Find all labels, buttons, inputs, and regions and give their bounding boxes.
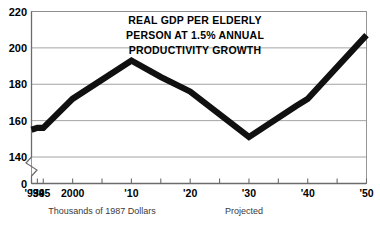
- y-axis-tick-label: 180: [9, 78, 27, 90]
- gdp-per-elderly-line-chart: 220200180160140 0 '93'94'952000'10'20'30…: [0, 0, 380, 227]
- x-axis-tick-label: '20: [183, 187, 197, 199]
- caption-projected: Projected: [225, 206, 263, 216]
- x-axis-tick-label: '40: [301, 187, 315, 199]
- chart-figure: 220200180160140 0 '93'94'952000'10'20'30…: [0, 0, 380, 227]
- chart-title-line: PRODUCTIVITY GROWTH: [129, 44, 262, 56]
- x-axis-tick-label: 2000: [61, 187, 85, 199]
- caption-units: Thousands of 1987 Dollars: [48, 206, 156, 216]
- chart-title: REAL GDP PER ELDERLYPERSON AT 1.5% ANNUA…: [126, 14, 264, 56]
- x-axis-tick-label: '30: [242, 187, 256, 199]
- y-axis-tick-label: 200: [9, 42, 27, 54]
- y-axis-tick-label: 160: [9, 115, 27, 127]
- x-axis-tick-label: '95: [36, 187, 50, 199]
- y-axis-tick-label: 140: [9, 151, 27, 163]
- x-axis-tick-label: '10: [124, 187, 138, 199]
- chart-title-line: REAL GDP PER ELDERLY: [128, 14, 261, 26]
- chart-title-line: PERSON AT 1.5% ANNUAL: [126, 29, 264, 41]
- x-axis-tick-label: '50: [359, 187, 373, 199]
- y-axis-tick-label: 220: [9, 6, 27, 18]
